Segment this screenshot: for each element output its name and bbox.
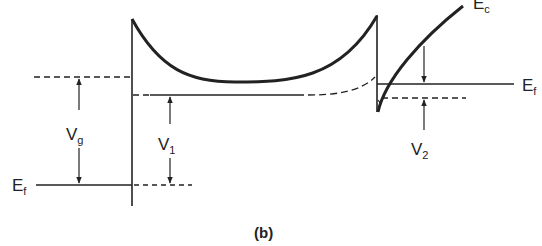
fermi-right-label: Ef <box>522 76 537 97</box>
v1-label: V1 <box>158 135 175 156</box>
figure-caption: (b) <box>254 224 273 241</box>
band-diagram: Vg V1 V2 Ef Ef Ec (b) <box>0 0 542 246</box>
v1-level-dashed-curve <box>308 77 375 95</box>
v2-label: V2 <box>411 140 428 161</box>
conduction-band-curve <box>132 16 377 82</box>
ec-curve <box>378 6 463 112</box>
vg-label: Vg <box>66 125 83 146</box>
fermi-left-label: Ef <box>12 176 27 197</box>
ec-label: Ec <box>473 0 490 15</box>
